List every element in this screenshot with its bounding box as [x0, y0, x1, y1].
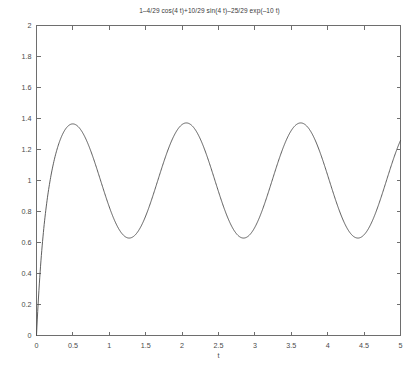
y-axis-ticks — [37, 26, 401, 336]
x-axis-label: t — [218, 351, 220, 360]
y-tick-label-0: 0 — [28, 331, 32, 340]
x-tick-label-4: 2 — [180, 341, 184, 350]
y-tick-label-9: 1.8 — [22, 52, 32, 61]
x-tick-label-3: 1.5 — [141, 341, 151, 350]
x-tick-label-0: 0 — [35, 341, 39, 350]
x-tick-label-10: 5 — [399, 341, 403, 350]
y-tick-label-2: 0.4 — [22, 269, 32, 278]
x-tick-label-6: 3 — [253, 341, 257, 350]
x-tick-label-2: 1 — [107, 341, 111, 350]
y-tick-label-1: 0.2 — [22, 300, 32, 309]
x-tick-label-5: 2.5 — [214, 341, 224, 350]
y-tick-label-5: 1 — [28, 176, 32, 185]
x-tick-label-8: 4 — [326, 341, 330, 350]
axes-box — [37, 26, 401, 336]
y-tick-label-8: 1.6 — [22, 83, 32, 92]
data-series-group — [37, 123, 401, 336]
plot-canvas: 00.511.522.533.544.5500.20.40.60.811.21.… — [0, 0, 419, 367]
y-tick-label-3: 0.6 — [22, 238, 32, 247]
y-tick-label-7: 1.4 — [22, 114, 32, 123]
data-curve — [37, 123, 401, 336]
x-tick-label-1: 0.5 — [68, 341, 78, 350]
y-tick-label-10: 2 — [28, 21, 32, 30]
plot-frame — [37, 26, 401, 336]
y-tick-label-4: 0.8 — [22, 207, 32, 216]
x-tick-label-9: 4.5 — [359, 341, 369, 350]
axis-tick-labels: 00.511.522.533.544.5500.20.40.60.811.21.… — [22, 21, 403, 359]
y-tick-label-6: 1.2 — [22, 145, 32, 154]
x-tick-label-7: 3.5 — [286, 341, 296, 350]
figure-window: 1–4/29 cos(4 t)+10/29 sin(4 t)–25/29 exp… — [0, 0, 419, 367]
x-axis-ticks — [37, 26, 401, 336]
